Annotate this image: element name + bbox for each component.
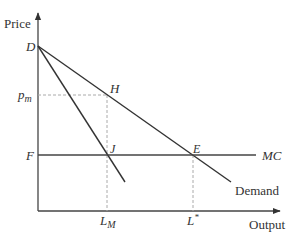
point-d-label: D bbox=[25, 39, 36, 54]
mc-label: MC bbox=[261, 148, 282, 163]
lstar-label: L* bbox=[186, 212, 199, 228]
point-f-label: F bbox=[25, 148, 35, 163]
y-axis-label: Price bbox=[4, 16, 31, 31]
demand-line bbox=[38, 46, 231, 182]
lm-label: LM bbox=[99, 213, 116, 230]
point-h-label: H bbox=[109, 81, 120, 96]
marginal-revenue-line bbox=[38, 46, 125, 182]
monopoly-diagram: Price Output D H J E F MC Demand pm LM L… bbox=[0, 0, 294, 243]
pm-label: pm bbox=[17, 87, 32, 104]
point-j-label: J bbox=[110, 142, 116, 156]
point-e-label: E bbox=[192, 142, 201, 156]
demand-label: Demand bbox=[235, 183, 280, 198]
x-axis-label: Output bbox=[249, 217, 286, 232]
